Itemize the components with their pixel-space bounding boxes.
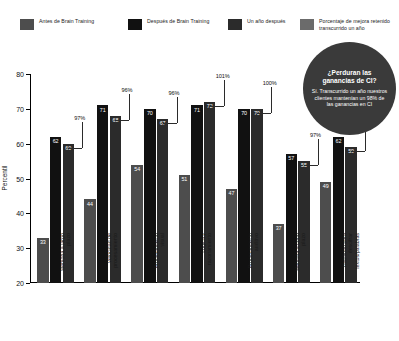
legend-swatch-un-ano-despues xyxy=(228,19,242,30)
bar-value-label: 44 xyxy=(87,202,93,207)
bar-value-label: 62 xyxy=(336,139,342,144)
legend-label-un-ano-despues: Un año después xyxy=(247,18,285,25)
legend-label-porcentaje-retenido: Porcentaje de mejora retenido transcurri… xyxy=(319,18,390,31)
bar: 44 xyxy=(84,199,96,283)
y-tick xyxy=(26,109,30,110)
legend-swatch-despues xyxy=(128,19,142,30)
legend-item-despues: Después de Brain Training xyxy=(128,18,209,30)
badge-body: Sí. Transcurrido un año nuestros cliente… xyxy=(311,88,388,108)
y-tick-label: 20 xyxy=(16,280,24,287)
bar-value-label: 71 xyxy=(100,108,106,113)
y-tick xyxy=(26,179,30,180)
pct-annotation-label: 97% xyxy=(310,132,321,138)
pct-leader-vertical xyxy=(271,87,272,113)
pct-leader-vertical xyxy=(82,122,83,148)
bar: 33 xyxy=(37,238,49,283)
legend-label-antes: Antes de Brain Training xyxy=(39,18,94,25)
pct-leader-vertical xyxy=(318,139,319,165)
legend-swatch-porcentaje-retenido xyxy=(300,19,314,30)
bar: 49 xyxy=(320,182,332,283)
bar: 47 xyxy=(226,189,238,283)
legend-swatch-antes xyxy=(20,19,34,30)
pct-annotation-label: 101% xyxy=(216,73,230,79)
y-tick-label: 80 xyxy=(16,71,24,78)
bar: 37 xyxy=(273,224,285,283)
x-axis-label: Procesamiento auditivo xyxy=(247,233,260,285)
y-tick xyxy=(26,283,30,284)
bar-value-label: 70 xyxy=(241,111,247,116)
x-axis-label: Habilidad para descifrar textos/palabras xyxy=(341,233,360,285)
y-tick-label: 40 xyxy=(16,210,24,217)
legend-item-antes: Antes de Brain Training xyxy=(20,18,94,30)
pct-leader-horizontal xyxy=(115,120,129,121)
y-tick-label: 60 xyxy=(16,140,24,147)
bar-value-label: 51 xyxy=(181,177,187,182)
bar-value-label: 57 xyxy=(288,156,294,161)
bar-value-label: 70 xyxy=(147,111,153,116)
chart-root: Antes de Brain Training Después de Brain… xyxy=(0,0,399,341)
y-tick xyxy=(26,248,30,249)
bar: 54 xyxy=(131,165,143,283)
legend-label-despues: Después de Brain Training xyxy=(147,18,209,25)
x-axis-label: Memoria a corto plazo xyxy=(294,233,307,285)
badge-title: ¿Perduran las ganancias de CI? xyxy=(311,69,388,85)
y-axis-title: Percentil xyxy=(1,166,8,191)
pct-leader-vertical xyxy=(177,97,178,123)
x-axis-label: Lógica y razonamiento xyxy=(200,233,213,285)
y-tick-label: 70 xyxy=(16,105,24,112)
bar-value-label: 62 xyxy=(53,139,59,144)
y-axis xyxy=(30,74,31,283)
pct-leader-horizontal xyxy=(68,148,82,149)
pct-leader-vertical xyxy=(224,80,225,106)
pct-annotation-label: 100% xyxy=(263,80,277,86)
pct-leader-horizontal xyxy=(163,123,177,124)
x-axis-label: Procesamiento visual xyxy=(153,233,166,285)
y-tick-label: 30 xyxy=(16,245,24,252)
bar: 51 xyxy=(179,175,191,283)
y-tick xyxy=(26,213,30,214)
bar-value-label: 49 xyxy=(323,184,329,189)
y-tick xyxy=(26,74,30,75)
iq-retention-badge: ¿Perduran las ganancias de CI? Sí. Trans… xyxy=(303,42,396,135)
x-axis-label: Memoria a largo plazo xyxy=(59,233,72,285)
y-tick xyxy=(26,144,30,145)
bar-value-label: 33 xyxy=(40,240,46,245)
x-axis-labels: Memoria a largo plazoVelocidad de proces… xyxy=(30,285,360,341)
pct-leader-horizontal xyxy=(257,113,271,114)
pct-annotation-label: 96% xyxy=(169,90,180,96)
pct-leader-horizontal xyxy=(304,165,318,166)
pct-leader-horizontal xyxy=(351,151,365,152)
pct-annotation-label: 97% xyxy=(74,115,85,121)
bar-value-label: 47 xyxy=(229,191,235,196)
pct-leader-horizontal xyxy=(210,106,224,107)
bar-value-label: 71 xyxy=(194,108,200,113)
x-axis-label: Velocidad de procesamiento xyxy=(106,233,119,285)
y-tick-label: 50 xyxy=(16,175,24,182)
legend-item-un-ano-despues: Un año después xyxy=(228,18,285,30)
legend-item-porcentaje-retenido: Porcentaje de mejora retenido transcurri… xyxy=(300,18,390,31)
pct-leader-vertical xyxy=(129,94,130,120)
bar-value-label: 37 xyxy=(276,226,282,231)
pct-annotation-label: 96% xyxy=(121,87,132,93)
bar-value-label: 54 xyxy=(134,167,140,172)
